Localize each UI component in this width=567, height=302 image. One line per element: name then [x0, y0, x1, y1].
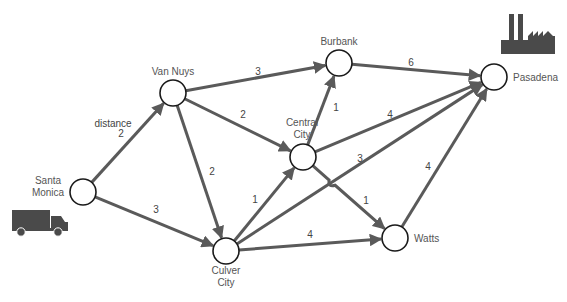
node-circle: [326, 50, 352, 76]
node-label: Central: [286, 117, 318, 128]
factory-icon: [501, 14, 555, 54]
edge-weight-label: 1: [333, 102, 339, 113]
edge-weight-label: 3: [255, 66, 261, 77]
edge-weight-label: 2: [209, 166, 215, 177]
shortest-path-network-diagram: 2distance332261411344 SantaMonicaVan Nuy…: [0, 0, 567, 302]
edge-van-nuys-to-central-city: [185, 99, 291, 151]
node-label: Santa: [35, 175, 62, 186]
node-circle: [290, 144, 316, 170]
node-label: Burbank: [320, 36, 358, 47]
edge-van-nuys-to-culver-city: [177, 105, 221, 237]
node-label: City: [293, 129, 310, 140]
node-pasadena: Pasadena: [481, 64, 558, 90]
edge-legend-label: distance: [94, 118, 132, 129]
edge-weight-label: 6: [408, 57, 414, 68]
edge-weight-label: 1: [252, 194, 258, 205]
edge-central-city-to-burbank: [308, 76, 334, 145]
node-burbank: Burbank: [320, 36, 358, 76]
edge-weight-label: 4: [307, 229, 313, 240]
edge-weight-label: 4: [425, 161, 431, 172]
node-label: Monica: [32, 187, 65, 198]
edge-weight-label: 4: [387, 109, 393, 120]
node-circle: [382, 225, 408, 251]
edge-labels-layer: 2distance332261411344: [94, 57, 431, 240]
edge-culver-city-to-pasadena: [237, 85, 482, 244]
node-santa-monica: SantaMonica: [32, 175, 96, 205]
node-culver-city: CulverCity: [212, 238, 242, 288]
node-central-city: CentralCity: [286, 117, 318, 170]
node-circle: [481, 64, 507, 90]
node-circle: [160, 80, 186, 106]
edge-weight-label: 3: [153, 204, 159, 215]
edge-burbank-to-pasadena: [352, 64, 480, 76]
node-label: Culver: [212, 265, 242, 276]
edge-central-city-to-pasadena: [315, 82, 481, 152]
edge-santa-monica-to-van-nuys: [92, 103, 164, 182]
edge-culver-city-to-central-city: [234, 168, 294, 241]
node-circle: [70, 179, 96, 205]
truck-icon: [12, 210, 68, 236]
edge-culver-city-to-watts: [239, 239, 381, 250]
edge-weight-label: 1: [363, 195, 369, 206]
node-label: Van Nuys: [152, 66, 195, 77]
node-label: City: [217, 277, 234, 288]
edge-weight-label: 3: [357, 153, 363, 164]
node-label: Pasadena: [513, 72, 558, 83]
edge-weight-label: 2: [240, 109, 246, 120]
node-label: Watts: [414, 233, 439, 244]
edge-central-city-to-watts: [313, 166, 385, 229]
edge-weight-label: 2: [118, 128, 124, 139]
node-watts: Watts: [382, 225, 439, 251]
node-circle: [213, 238, 239, 264]
